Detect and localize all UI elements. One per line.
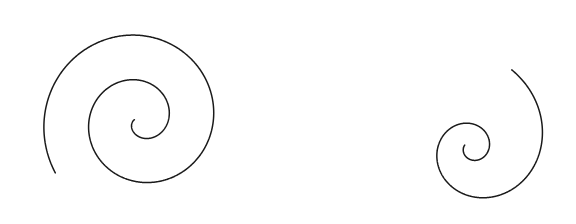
spiral-figure-svg	[0, 0, 576, 224]
spiral-figure-canvas	[0, 0, 576, 224]
figure-background	[0, 0, 576, 224]
